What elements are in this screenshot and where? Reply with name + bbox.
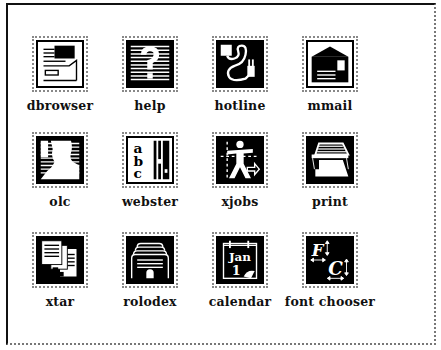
item-label: hotline: [190, 98, 290, 113]
item-label: calendar: [190, 294, 290, 309]
question-mark-icon: [126, 40, 174, 88]
launcher-item-mmail[interactable]: mmail: [280, 36, 380, 113]
mailbox-envelope-icon: [306, 40, 354, 88]
item-label: webster: [100, 194, 200, 209]
person-silhouette-icon: [36, 136, 84, 184]
phone-cord-plug-icon: [216, 40, 264, 88]
printer-icon: [306, 136, 354, 184]
item-label: olc: [10, 194, 110, 209]
item-label: mmail: [280, 98, 380, 113]
launcher-item-font-chooser[interactable]: F C font chooser: [280, 232, 380, 309]
launcher-item-olc[interactable]: olc: [10, 132, 110, 209]
svg-text:c: c: [134, 165, 142, 181]
launcher-item-rolodex[interactable]: rolodex: [100, 232, 200, 309]
calendar-jan-1-icon: Jan 1: [216, 236, 264, 284]
svg-text:C: C: [328, 258, 343, 279]
launcher-item-xtar[interactable]: xtar: [10, 232, 110, 309]
item-label: print: [280, 194, 380, 209]
svg-text:F: F: [311, 241, 325, 260]
svg-text:1: 1: [232, 263, 241, 278]
font-fc-icon: F C: [306, 236, 354, 284]
worker-figure-icon: [216, 136, 264, 184]
launcher-item-dbrowser[interactable]: dbrowser: [10, 36, 110, 113]
document-stack-icon: [36, 236, 84, 284]
item-label: dbrowser: [10, 98, 110, 113]
file-cabinet-icon: [36, 40, 84, 88]
dictionary-abc-icon: a b c: [126, 136, 174, 184]
item-label: font chooser: [280, 294, 380, 309]
item-label: help: [100, 98, 200, 113]
item-label: rolodex: [100, 294, 200, 309]
launcher-item-webster[interactable]: a b c webster: [100, 132, 200, 209]
launcher-item-calendar[interactable]: Jan 1 calendar: [190, 232, 290, 309]
launcher-item-xjobs[interactable]: xjobs: [190, 132, 290, 209]
launcher-item-print[interactable]: print: [280, 132, 380, 209]
card-file-icon: [126, 236, 174, 284]
launcher-item-hotline[interactable]: hotline: [190, 36, 290, 113]
launcher-item-help[interactable]: help: [100, 36, 200, 113]
item-label: xtar: [10, 294, 110, 309]
item-label: xjobs: [190, 194, 290, 209]
